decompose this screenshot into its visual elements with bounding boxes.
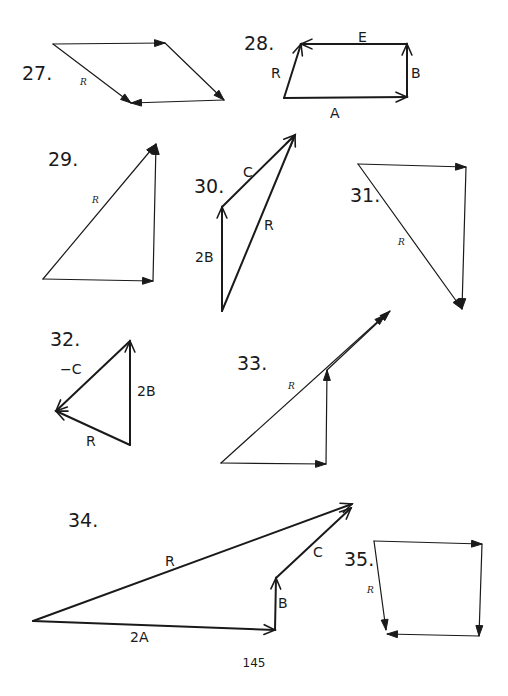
resultant-vector [374, 541, 388, 630]
problem-30: 30.CR2B [194, 135, 295, 311]
arrowhead-icon [476, 625, 483, 636]
component-vector [125, 341, 135, 445]
problem-number: 28. [244, 32, 274, 54]
problem-number: 31. [350, 184, 380, 206]
vector-label: R [271, 65, 281, 81]
arrowhead-icon [142, 277, 153, 284]
component-vector [152, 144, 159, 281]
component-vector [323, 370, 330, 464]
component-vector [217, 207, 227, 311]
vector-label: 2A [130, 629, 149, 645]
problem-27: 27.R [22, 40, 224, 106]
arrowhead-icon [155, 40, 165, 47]
vector-label: 2B [137, 383, 156, 399]
arrowhead-icon [316, 460, 326, 467]
component-vector [43, 277, 153, 284]
component-vector [387, 631, 479, 638]
page-number: 145 [0, 656, 508, 670]
problem-number: 30. [194, 175, 224, 197]
problem-31: 31.R [350, 163, 466, 309]
problem-35: 35.R [344, 540, 483, 637]
component-vector [476, 544, 483, 636]
arrowhead-icon [131, 99, 142, 106]
vector-label: R [397, 237, 405, 247]
arrowhead-icon [121, 94, 131, 103]
problem-28: 28.EBAR [244, 29, 421, 121]
problem-number: 34. [68, 509, 98, 531]
component-vector [284, 92, 407, 102]
vector-label: R [165, 553, 175, 569]
vector-label: B [278, 595, 288, 611]
component-vector [374, 540, 482, 547]
problem-number: 27. [22, 62, 52, 84]
component-vector [222, 135, 295, 207]
vector-label: R [366, 585, 374, 595]
resultant-vector [222, 135, 295, 311]
problem-29: 29.R [43, 144, 159, 284]
resultant-vector [358, 164, 462, 309]
vector-label: R [86, 433, 96, 449]
resultant-vector [221, 315, 385, 463]
problem-34: 34.R2ABC [33, 503, 352, 645]
arrowhead-icon [387, 631, 398, 638]
vector-label: C [243, 164, 253, 180]
vector-label: C [313, 544, 323, 560]
vector-label: −C [60, 361, 82, 377]
vector-label: R [287, 381, 295, 391]
resultant-vector [284, 44, 302, 98]
arrowhead-icon [381, 619, 388, 630]
component-vector [131, 99, 224, 106]
vector-label: R [91, 195, 99, 205]
component-vector [459, 167, 466, 309]
component-vector [301, 39, 407, 49]
vector-label: R [264, 217, 274, 233]
resultant-vector [53, 44, 131, 103]
problem-number: 35. [344, 548, 374, 570]
arrowhead-icon [455, 163, 466, 170]
problem-number: 29. [48, 148, 78, 170]
problem-number: 33. [237, 352, 267, 374]
problem-number: 32. [50, 328, 80, 350]
component-vector [165, 43, 224, 100]
arrowhead-icon [471, 540, 482, 547]
component-vector [358, 163, 466, 170]
vector-label: B [411, 65, 421, 81]
vector-diagram-canvas: 27.R28.EBAR29.R30.CR2B31.R32.−C2BR33.R34… [0, 0, 508, 696]
vector-label: E [358, 29, 367, 45]
component-vector [53, 40, 165, 47]
vector-label: R [79, 77, 87, 87]
component-vector [221, 460, 326, 467]
vector-label: A [330, 105, 340, 121]
component-vector [33, 621, 275, 634]
problem-32: 32.−C2BR [50, 328, 156, 449]
problem-33: 33.R [221, 311, 390, 467]
arrowhead-icon [323, 370, 330, 380]
vector-label: 2B [195, 249, 214, 265]
